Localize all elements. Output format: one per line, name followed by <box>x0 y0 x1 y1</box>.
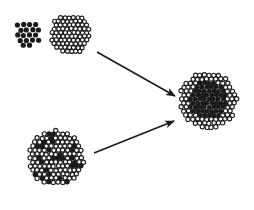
core-shell-particle-cluster <box>179 73 239 130</box>
mixed-particle-cluster <box>28 128 86 184</box>
arrow-top-to-core-shell <box>97 52 175 96</box>
diagram-svg <box>0 0 254 210</box>
open-particle-cluster <box>50 16 91 54</box>
arrow-bottom-to-core-shell <box>94 121 174 153</box>
diagram-canvas <box>0 0 254 210</box>
solid-particle-cluster <box>15 22 41 48</box>
